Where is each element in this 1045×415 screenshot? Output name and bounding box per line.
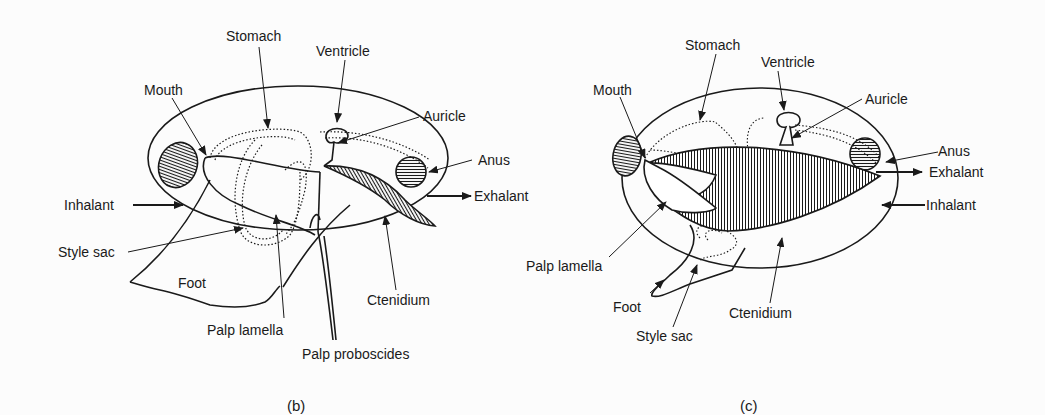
label-auricle-b: Auricle xyxy=(423,108,466,124)
label-ventricle-b: Ventricle xyxy=(316,43,370,59)
label-inhalant-b: Inhalant xyxy=(64,197,114,213)
posterior-adductor-b xyxy=(396,157,426,187)
figure-c xyxy=(610,88,898,296)
label-palp-lamella-c: Palp lamella xyxy=(526,258,602,274)
label-mouth-c: Mouth xyxy=(593,82,632,98)
label-foot-c: Foot xyxy=(613,299,641,315)
label-foot-b: Foot xyxy=(178,275,206,291)
label-ctenidium-b: Ctenidium xyxy=(367,292,430,308)
caption-b: (b) xyxy=(287,398,305,414)
anterior-adductor-c xyxy=(610,134,645,178)
anterior-adductor-b xyxy=(152,137,203,193)
label-style-sac-b: Style sac xyxy=(58,244,115,260)
label-anus-b: Anus xyxy=(478,152,510,168)
caption-c: (c) xyxy=(740,398,758,414)
label-exhalant-c: Exhalant xyxy=(929,164,983,180)
label-anus-c: Anus xyxy=(938,143,970,159)
label-palp-proboscides-b: Palp proboscides xyxy=(302,346,409,362)
label-exhalant-b: Exhalant xyxy=(474,188,528,204)
label-ctenidium-c: Ctenidium xyxy=(729,305,792,321)
label-mouth-b: Mouth xyxy=(144,82,183,98)
ventricle-c xyxy=(777,113,800,146)
label-stomach-b: Stomach xyxy=(226,28,281,44)
bivalve-diagrams xyxy=(0,0,1045,415)
label-palp-lamella-b: Palp lamella xyxy=(207,322,283,338)
palp-proboscides-b xyxy=(318,232,336,340)
label-inhalant-c: Inhalant xyxy=(926,197,976,213)
label-style-sac-c: Style sac xyxy=(636,328,693,344)
label-auricle-c: Auricle xyxy=(865,91,908,107)
label-stomach-c: Stomach xyxy=(685,37,740,53)
label-ventricle-c: Ventricle xyxy=(761,54,815,70)
